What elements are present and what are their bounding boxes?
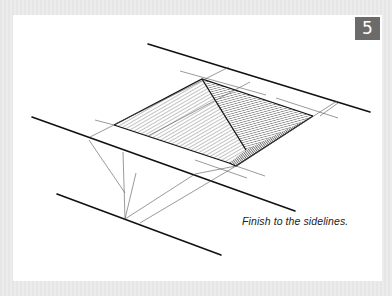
figure-caption: Finish to the sidelines. xyxy=(242,215,348,227)
step-number-badge: 5 xyxy=(355,17,380,40)
recess-faces xyxy=(114,79,313,166)
sketch-illustration xyxy=(0,0,392,296)
